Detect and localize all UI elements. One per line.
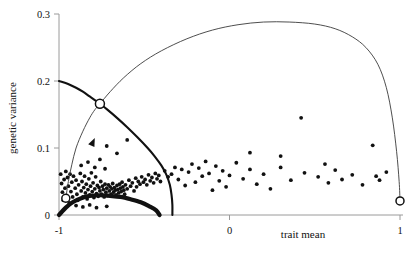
scatter-point — [88, 203, 92, 207]
scatter-point — [87, 177, 91, 181]
scatter-point — [378, 178, 382, 182]
scatter-point — [124, 183, 128, 187]
scatter-point — [147, 173, 151, 177]
scatter-point — [93, 187, 97, 191]
scatter-point — [176, 178, 180, 182]
scatter-point — [72, 174, 76, 178]
scatter-point — [98, 157, 102, 161]
scatter-point — [134, 176, 138, 180]
y-tick-label: 0.3 — [37, 9, 50, 20]
scatter-point — [64, 170, 68, 174]
scatter-point — [95, 206, 99, 210]
x-axis-tick-labels: -101 — [55, 225, 403, 236]
scatter-point — [289, 178, 293, 182]
scatter-point — [98, 189, 102, 193]
scatter-point — [103, 182, 107, 186]
y-tick-label: 0 — [45, 210, 50, 221]
scatter-point — [89, 184, 93, 188]
scatter-point — [74, 204, 78, 208]
scatter-point — [86, 188, 90, 192]
marker-right-equilibrium — [396, 197, 404, 205]
scatter-point — [180, 168, 184, 172]
scatter-point — [384, 170, 388, 174]
marker-branch-point — [95, 99, 104, 108]
scatter-point — [63, 186, 67, 190]
trajectory-arrow — [88, 138, 95, 147]
scatter-point — [371, 143, 375, 147]
scatter-point — [197, 166, 201, 170]
scatter-point — [138, 182, 142, 186]
scatter-point — [152, 181, 156, 185]
x-axis-ticks — [59, 215, 400, 220]
scatter-point — [228, 174, 232, 178]
scatter-point — [204, 160, 208, 164]
scatter-point — [70, 180, 74, 184]
scatter-point — [97, 186, 101, 190]
scatter-point — [61, 190, 65, 194]
scatter-point — [194, 180, 198, 184]
trajectory-arrow-head — [88, 138, 95, 147]
scatter-point — [79, 164, 83, 168]
scatter-point — [125, 138, 129, 142]
axes-group — [59, 14, 403, 215]
scatter-point — [105, 144, 109, 148]
scatter-point — [78, 172, 82, 176]
scatter-point — [155, 177, 159, 181]
scatter-point — [80, 180, 84, 184]
scatter-point — [82, 186, 86, 190]
scatter-point — [323, 162, 327, 166]
scatter-point — [120, 180, 124, 184]
scatter-point — [350, 173, 354, 177]
scatter-point — [135, 185, 139, 189]
scatter-point — [73, 186, 77, 190]
chart-container: 00.10.20.3 -101 trait mean genetic varia… — [0, 0, 419, 253]
scatter-point — [145, 183, 149, 187]
scatter-point — [129, 184, 133, 188]
scatter-point — [157, 174, 161, 178]
scatter-point — [111, 182, 115, 186]
scatter-point — [153, 172, 157, 176]
scatter-point — [173, 166, 177, 170]
scatter-point — [159, 180, 163, 184]
scatter-point — [150, 176, 154, 180]
scatter-point — [74, 178, 78, 182]
scatter-point — [62, 178, 66, 182]
scatter-point — [187, 170, 191, 174]
scatter-point — [77, 183, 81, 187]
scatter-point — [279, 166, 283, 170]
marker-lower-left-equilibrium — [62, 194, 70, 202]
scatter-point — [248, 151, 252, 155]
scatter-point — [93, 166, 97, 170]
scatter-point — [279, 154, 283, 158]
curve-thin-solid — [66, 22, 400, 201]
scatter-point — [125, 187, 129, 191]
scatter-point — [91, 181, 95, 185]
scatter-point — [221, 169, 225, 173]
scatter-point — [217, 179, 221, 183]
scatter-point — [83, 174, 87, 178]
scatter-point — [224, 185, 228, 189]
scatter-point — [183, 184, 187, 188]
scatter-point — [143, 178, 147, 182]
y-tick-label: 0.1 — [37, 143, 50, 154]
y-axis-ticks — [54, 14, 59, 215]
x-axis-title: trait mean — [281, 228, 326, 240]
scatter-point — [361, 183, 365, 187]
scatter-point — [374, 174, 378, 178]
x-tick-label: 1 — [397, 225, 402, 236]
scatter-chart: 00.10.20.3 -101 trait mean genetic varia… — [0, 0, 419, 253]
scatter-point — [60, 182, 64, 186]
scatter-point — [132, 189, 136, 193]
x-tick-label: 0 — [227, 225, 232, 236]
scatter-point — [84, 182, 88, 186]
scatter-point — [75, 192, 79, 196]
scatter-point — [127, 178, 131, 182]
x-tick-label: -1 — [55, 225, 64, 236]
scatter-point — [59, 172, 63, 176]
scatter-point — [211, 188, 215, 192]
scatter-point — [69, 190, 73, 194]
scatter-point — [200, 174, 204, 178]
y-tick-label: 0.2 — [37, 76, 50, 87]
scatter-point — [326, 181, 330, 185]
y-axis-title: genetic variance — [6, 82, 18, 154]
